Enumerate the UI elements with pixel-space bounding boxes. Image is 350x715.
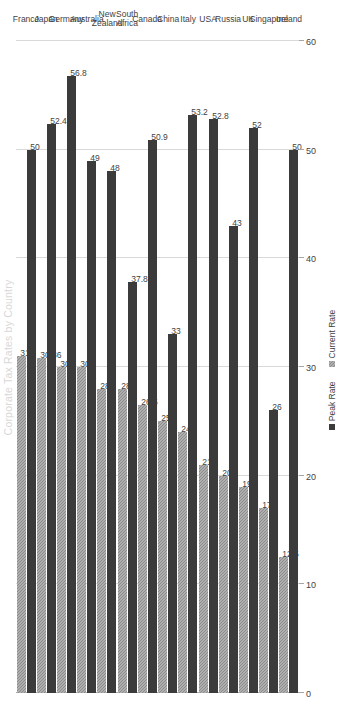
x-axis-tick-label: 50 — [306, 146, 316, 156]
bar-peak-rate[interactable] — [188, 115, 197, 693]
plot-area: 315030.8652.43056.8304928482837.826.550.… — [16, 41, 299, 693]
bar-current-rate[interactable] — [259, 508, 268, 693]
bar-current-rate[interactable] — [178, 432, 187, 693]
bar-group: 2837.8 — [117, 41, 137, 693]
chart-legend: Peak RateCurrent Rate — [320, 25, 344, 715]
x-axis-tick — [299, 366, 304, 367]
bar-group: 2453.2 — [178, 41, 198, 693]
bar-current-rate[interactable] — [138, 405, 147, 693]
legend-swatch-icon — [329, 361, 335, 367]
legend-label: Current Rate — [327, 310, 337, 359]
legend-swatch-icon — [329, 424, 335, 430]
bar-group: 1726 — [259, 41, 279, 693]
bar-peak-rate[interactable] — [87, 161, 96, 693]
category-axis-labels: FranceJapanGermanyAustraliaNewZealandSou… — [16, 0, 299, 39]
x-axis-tick-label: 10 — [306, 580, 316, 590]
bar-peak-rate[interactable] — [148, 140, 157, 693]
x-axis-tick — [299, 583, 304, 584]
bar-peak-rate[interactable] — [128, 282, 137, 693]
bar-peak-rate[interactable] — [27, 150, 36, 693]
category-label: Ireland — [269, 9, 308, 29]
x-axis-tick-label: 20 — [306, 472, 316, 482]
bar-group: 3056.8 — [56, 41, 76, 693]
bar-group: 3049 — [77, 41, 97, 693]
bar-group: 2848 — [97, 41, 117, 693]
bar-peak-rate[interactable] — [249, 128, 258, 693]
x-axis-tick — [299, 40, 304, 41]
bar-group: 2043 — [218, 41, 238, 693]
bar-current-rate[interactable] — [17, 356, 26, 693]
bar-current-rate[interactable] — [77, 367, 86, 693]
bar-group: 26.550.9 — [137, 41, 157, 693]
x-axis-tick-label: 0 — [306, 689, 311, 699]
bar-peak-rate[interactable] — [289, 150, 298, 693]
bar-group: 2533 — [158, 41, 178, 693]
bar-peak-rate[interactable] — [47, 124, 56, 693]
bar-peak-rate[interactable] — [209, 119, 218, 693]
x-axis-tick — [299, 257, 304, 258]
bar-peak-rate[interactable] — [229, 226, 238, 693]
x-axis-tick-label: 40 — [306, 254, 316, 264]
bar-chart-figure: Corporate Tax Rates by Country 315030.86… — [0, 0, 350, 715]
bar-current-rate[interactable] — [97, 389, 106, 693]
bar-current-rate[interactable] — [57, 367, 66, 693]
legend-item[interactable]: Peak Rate — [327, 381, 337, 430]
bar-group: 30.8652.4 — [36, 41, 56, 693]
x-axis-tick-label: 30 — [306, 363, 316, 373]
bar-group: 1952 — [238, 41, 258, 693]
x-axis-tick — [299, 149, 304, 150]
bar-peak-rate[interactable] — [168, 334, 177, 693]
bar-peak-rate[interactable] — [107, 171, 116, 693]
bar-current-rate[interactable] — [199, 465, 208, 693]
bar-current-rate[interactable] — [219, 476, 228, 693]
bar-current-rate[interactable] — [118, 389, 127, 693]
chart-title: Corporate Tax Rates by Country — [2, 0, 14, 715]
legend-item[interactable]: Current Rate — [327, 310, 337, 368]
bar-group: 3150 — [16, 41, 36, 693]
bar-current-rate[interactable] — [279, 557, 288, 693]
bar-group: 12.550 — [279, 41, 299, 693]
bar-current-rate[interactable] — [158, 421, 167, 693]
rotated-figure-wrapper: Corporate Tax Rates by Country 315030.86… — [0, 0, 350, 715]
x-axis-tick — [299, 692, 304, 693]
bar-group: 2152.8 — [198, 41, 218, 693]
bar-current-rate[interactable] — [239, 487, 248, 693]
x-axis-tick — [299, 475, 304, 476]
bar-current-rate[interactable] — [37, 358, 46, 693]
bar-peak-rate[interactable] — [269, 410, 278, 693]
bar-peak-rate[interactable] — [67, 76, 76, 693]
legend-label: Peak Rate — [327, 381, 337, 421]
x-axis-tick-label: 60 — [306, 37, 316, 47]
